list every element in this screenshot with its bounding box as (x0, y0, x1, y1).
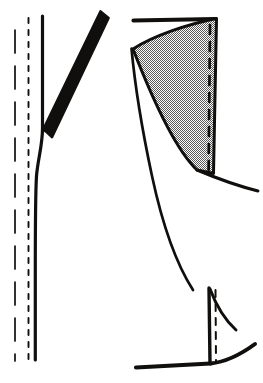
center-front-edge (35, 16, 42, 360)
diagonal-strap (44, 12, 109, 138)
pattern-diagram-canvas (0, 0, 263, 383)
lower-right-flare-curve (210, 289, 236, 330)
pattern-diagram-svg (0, 0, 263, 383)
left-figure (15, 12, 109, 362)
gusset-lower-flare-curve (197, 170, 258, 191)
right-figure (132, 19, 259, 368)
bottom-hem-line (136, 364, 211, 368)
lower-vertical-edge (209, 288, 210, 363)
gusset-dashed-seam-line (209, 25, 210, 170)
bottom-hem-right-curve (211, 344, 256, 364)
